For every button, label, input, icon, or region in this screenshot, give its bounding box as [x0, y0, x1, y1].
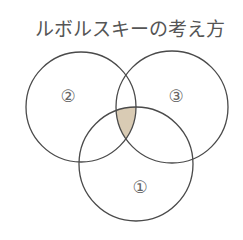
circle-1	[79, 107, 193, 221]
venn-diagram: ② ③ ①	[0, 0, 243, 240]
circle-3-label: ③	[168, 86, 183, 106]
circle-1-label: ①	[132, 177, 147, 197]
circle-2-label: ②	[60, 86, 75, 106]
circle-2	[26, 52, 136, 162]
